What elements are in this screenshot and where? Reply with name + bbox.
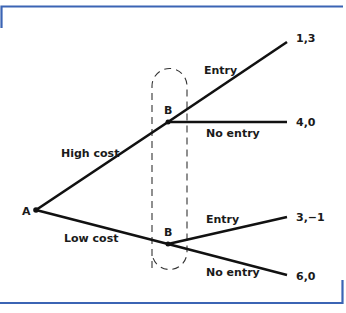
frame-top-border	[2, 7, 344, 29]
node-b-lower-label: B	[164, 226, 172, 239]
label-high-cost: High cost	[61, 147, 119, 160]
game-tree-diagram: A B B High cost Low cost Entry No entry …	[0, 0, 346, 313]
node-b-upper-label: B	[164, 104, 172, 117]
payoff-high-no-entry: 4,0	[296, 116, 316, 129]
node-a	[33, 207, 39, 213]
frame-bottom-border	[0, 280, 343, 303]
label-low-cost: Low cost	[64, 232, 118, 245]
label-lower-no-entry: No entry	[206, 266, 260, 279]
branch-high-cost	[36, 122, 168, 210]
label-lower-entry: Entry	[206, 213, 239, 226]
information-set-outline	[152, 69, 187, 270]
node-a-label: A	[22, 205, 31, 218]
payoff-high-entry: 1,3	[296, 32, 316, 45]
branch-upper-entry	[168, 42, 287, 122]
payoff-low-no-entry: 6,0	[296, 270, 316, 283]
label-upper-no-entry: No entry	[206, 127, 260, 140]
payoff-low-entry: 3,−1	[296, 211, 325, 224]
label-upper-entry: Entry	[204, 64, 237, 77]
node-b-upper	[166, 120, 171, 125]
node-b-lower	[166, 242, 171, 247]
